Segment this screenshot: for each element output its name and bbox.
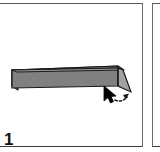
step-number-label: 1 xyxy=(4,131,13,149)
bar-bevel-face xyxy=(118,68,131,92)
tutorial-panel-2-partial[interactable] xyxy=(152,3,160,147)
beveled-bar-3d-figure[interactable] xyxy=(10,62,132,98)
tutorial-panel-1[interactable]: 1 xyxy=(0,3,143,147)
tutorial-panel-strip: 1 xyxy=(0,0,160,152)
